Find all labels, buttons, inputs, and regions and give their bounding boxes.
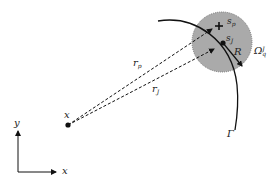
- origin-point-label: x: [64, 110, 70, 120]
- r-p-vector: [68, 29, 212, 125]
- r-p-label: rp: [133, 58, 142, 69]
- r-j-label: rJ: [152, 84, 159, 95]
- diagram-canvas: [0, 0, 279, 185]
- s-j-dot: [220, 40, 225, 45]
- x-axis-label: x: [62, 166, 68, 176]
- origin-point-dot: [65, 122, 70, 127]
- radius-label: R: [234, 47, 242, 57]
- s-p-label: sp: [227, 17, 235, 27]
- y-axis-label: y: [14, 118, 20, 128]
- s-j-label: sJ: [226, 34, 233, 44]
- omega-label: ΩJq: [254, 46, 266, 56]
- gamma-label: Γ: [227, 129, 234, 139]
